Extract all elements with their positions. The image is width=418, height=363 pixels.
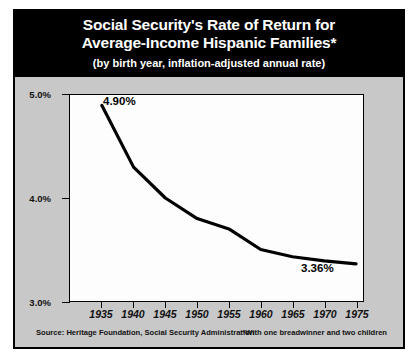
data-label-end: 3.36%: [301, 262, 334, 274]
y-axis-label-4: 4.0%: [0, 193, 51, 204]
chart-footer: Source: Heritage Foundation, Social Secu…: [15, 328, 403, 342]
x-axis-label-1975: 1975: [334, 308, 380, 320]
chart-plot-region: 5.0% 4.0% 3.0% 1935 1940 1945 1950 1955 …: [15, 77, 403, 347]
source-note: Source: Heritage Foundation, Social Secu…: [36, 328, 254, 337]
y-axis-label-5: 5.0%: [0, 89, 51, 100]
data-label-start: 4.90%: [103, 95, 136, 107]
y-axis-tick-mark: [62, 302, 70, 303]
chart-title-block: Social Security's Rate of Return for Ave…: [15, 11, 403, 77]
y-axis-label-3: 3.0%: [0, 297, 51, 308]
footnote: *With one breadwinner and two children: [242, 328, 387, 337]
chart-title-line-2: Average-Income Hispanic Families*: [15, 34, 403, 52]
chart-figure: Social Security's Rate of Return for Ave…: [13, 9, 405, 349]
chart-subtitle: (by birth year, inflation-adjusted annua…: [15, 55, 403, 71]
chart-title-line-1: Social Security's Rate of Return for: [15, 16, 403, 34]
